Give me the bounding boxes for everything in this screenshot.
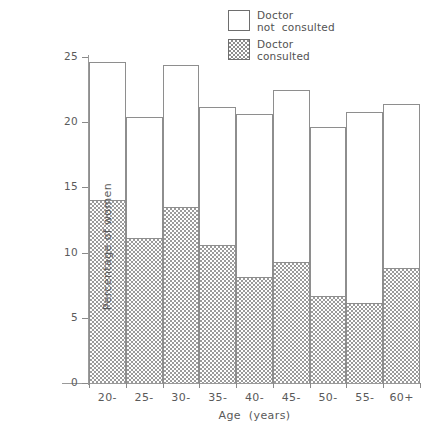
- bar-series-container: [89, 57, 420, 383]
- bar-segment-doctor-consulted[interactable]: [346, 303, 383, 383]
- y-axis-title: Percentage of women: [101, 167, 114, 327]
- bar-segment-doctor-consulted[interactable]: [273, 262, 310, 383]
- x-tick: [310, 383, 311, 388]
- x-tick: [126, 383, 127, 388]
- plot-area: Percentage of women: [89, 57, 420, 383]
- bar-segment-doctor-consulted[interactable]: [383, 268, 420, 383]
- bar-segment-doctor-consulted[interactable]: [199, 245, 236, 383]
- x-tick: [199, 383, 200, 388]
- x-tick-label-35-: 35-: [199, 391, 236, 404]
- legend-label-line1: Doctor: [257, 10, 335, 22]
- y-tick-label-25: 25: [52, 50, 78, 62]
- y-tick-label-5: 5: [52, 311, 78, 323]
- y-tick-25: [82, 57, 88, 58]
- bar-segment-doctor-not-consulted[interactable]: [383, 104, 420, 268]
- bar-segment-doctor-consulted[interactable]: [236, 277, 273, 383]
- bar-segment-doctor-consulted[interactable]: [163, 207, 200, 383]
- bar-segment-doctor-not-consulted[interactable]: [163, 65, 200, 207]
- x-tick-label-60+: 60+: [383, 391, 420, 404]
- bar-segment-doctor-not-consulted[interactable]: [273, 90, 310, 262]
- bar-segment-doctor-not-consulted[interactable]: [236, 114, 273, 277]
- legend-label-line1: Doctor: [257, 39, 310, 51]
- bar-group[interactable]: [310, 127, 347, 383]
- bar-segment-doctor-not-consulted[interactable]: [346, 112, 383, 304]
- x-tick: [236, 383, 237, 388]
- x-axis-line: [62, 383, 421, 384]
- y-tick-label-15: 15: [52, 180, 78, 192]
- x-tick-label-30-: 30-: [163, 391, 200, 404]
- bar-group[interactable]: [346, 112, 383, 383]
- bar-segment-doctor-not-consulted[interactable]: [126, 117, 163, 238]
- x-axis-title: Age (years): [89, 409, 420, 422]
- x-tick: [163, 383, 164, 388]
- x-tick-label-25-: 25-: [126, 391, 163, 404]
- bar-segment-doctor-not-consulted[interactable]: [310, 127, 347, 295]
- x-tick: [383, 383, 384, 388]
- legend-label-doctor-not-consulted: Doctor not consulted: [257, 10, 335, 33]
- x-tick: [346, 383, 347, 388]
- bar-group[interactable]: [199, 107, 236, 383]
- y-tick-10: [82, 253, 88, 254]
- y-tick-20: [82, 122, 88, 123]
- y-tick-15: [82, 187, 88, 188]
- y-tick-label-10: 10: [52, 246, 78, 258]
- bar-segment-doctor-consulted[interactable]: [126, 238, 163, 383]
- x-tick-label-55-: 55-: [346, 391, 383, 404]
- y-tick-label-20: 20: [52, 115, 78, 127]
- bar-group[interactable]: [383, 104, 420, 383]
- x-tick: [273, 383, 274, 388]
- y-tick-5: [82, 318, 88, 319]
- chart-root: Doctor not consulted Doctor consulted 25…: [0, 0, 440, 426]
- bar-group[interactable]: [126, 117, 163, 383]
- bar-segment-doctor-not-consulted[interactable]: [199, 107, 236, 245]
- x-tick-label-20-: 20-: [89, 391, 126, 404]
- legend-swatch-white-square: [228, 10, 250, 31]
- x-tick-label-50-: 50-: [310, 391, 347, 404]
- legend-item-doctor-not-consulted: Doctor not consulted: [228, 10, 408, 33]
- x-tick-label-45-: 45-: [273, 391, 310, 404]
- bar-group[interactable]: [236, 114, 273, 383]
- bar-group[interactable]: [273, 90, 310, 383]
- x-tick-label-40-: 40-: [236, 391, 273, 404]
- y-tick-0: [82, 383, 88, 384]
- y-tick-label-0: 0: [52, 376, 78, 388]
- x-tick: [89, 383, 90, 388]
- bar-segment-doctor-consulted[interactable]: [310, 296, 347, 383]
- bar-group[interactable]: [163, 65, 200, 383]
- legend-label-line2: not consulted: [257, 22, 335, 34]
- x-tick: [420, 383, 421, 388]
